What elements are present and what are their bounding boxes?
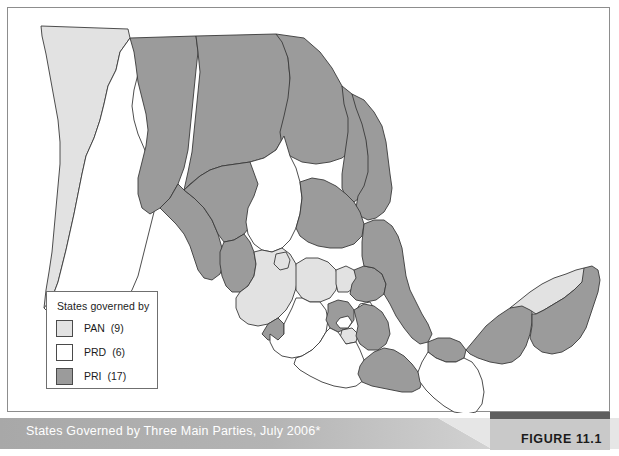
legend-item-prd[interactable]: PRD (6)	[56, 342, 157, 362]
legend-label-pri: PRI	[84, 370, 102, 382]
state-guanajuato[interactable]	[296, 258, 338, 302]
legend-label-pan: PAN	[84, 322, 105, 334]
state-puebla[interactable]	[354, 304, 390, 350]
legend-item-pan[interactable]: PAN (9)	[56, 318, 157, 338]
legend-count-pan: (9)	[111, 322, 124, 334]
legend-swatch-prd	[56, 344, 73, 361]
figure-caption-text: States Governed by Three Main Parties, J…	[26, 424, 320, 438]
legend-count-pri: (17)	[108, 370, 127, 382]
map-legend: States governed by PAN (9) PRD (6) PRI (…	[46, 291, 158, 389]
legend-label-prd: PRD	[84, 346, 106, 358]
figure-number-tab: FIGURE 11.1	[490, 412, 610, 450]
legend-item-pri[interactable]: PRI (17)	[56, 366, 157, 386]
map-panel: States governed by PAN (9) PRD (6) PRI (…	[7, 7, 610, 412]
state-campeche[interactable]	[466, 302, 532, 364]
state-oaxaca[interactable]	[358, 348, 422, 392]
legend-count-prd: (6)	[112, 346, 125, 358]
legend-swatch-pan	[56, 320, 73, 337]
legend-title: States governed by	[57, 300, 157, 312]
figure-tab-body: FIGURE 11.1	[490, 419, 610, 450]
figure-container: States governed by PAN (9) PRD (6) PRI (…	[0, 0, 619, 456]
legend-swatch-pri	[56, 368, 73, 385]
figure-tab-accent	[490, 412, 610, 419]
figure-number-label: FIGURE 11.1	[490, 432, 602, 446]
